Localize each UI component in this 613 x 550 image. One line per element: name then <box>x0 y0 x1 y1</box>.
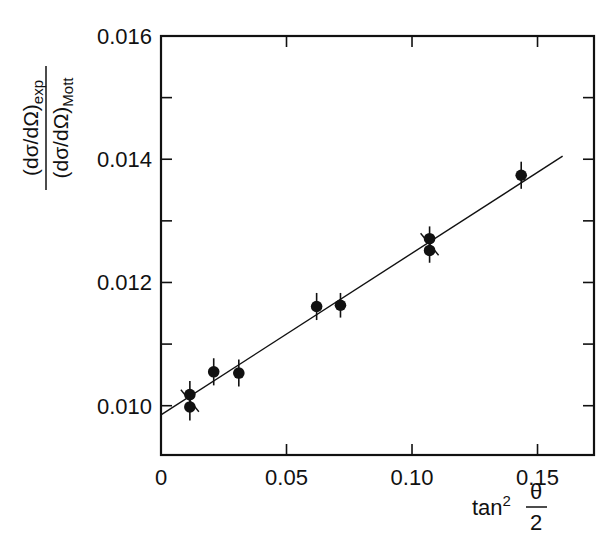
y-tick-label: 0.010 <box>97 394 152 419</box>
svg-text:θ: θ <box>530 479 542 504</box>
fit-line <box>161 156 563 415</box>
chart: 00.050.100.15 0.0100.0120.0140.016 (dσ/d… <box>0 0 613 550</box>
svg-text:tan2: tan2 <box>472 492 511 520</box>
plot-frame <box>161 36 594 455</box>
x-axis-label: tan2 θ 2 <box>472 479 547 535</box>
x-axis-ticks: 00.050.100.15 <box>155 36 559 490</box>
data-points <box>184 162 527 421</box>
y-tick-label: 0.012 <box>97 270 152 295</box>
x-tick-label: 0.10 <box>391 465 434 490</box>
data-point <box>233 359 245 386</box>
y-tick-label: 0.016 <box>97 24 152 49</box>
x-tick-label: 0 <box>155 465 167 490</box>
data-point <box>208 358 220 385</box>
svg-text:2: 2 <box>530 510 542 535</box>
cross-markers <box>181 233 439 412</box>
y-axis-label: (dσ/dΩ)exp (dσ/dΩ)Mott <box>19 66 76 190</box>
y-tick-label: 0.014 <box>97 147 152 172</box>
x-tick-label: 0.05 <box>265 465 308 490</box>
y-axis-ticks: 0.0100.0120.0140.016 <box>97 24 594 419</box>
y-label-numerator: (dσ/dΩ)exp <box>19 80 46 176</box>
data-point <box>311 293 323 320</box>
y-label-denominator: (dσ/dΩ)Mott <box>49 77 76 179</box>
